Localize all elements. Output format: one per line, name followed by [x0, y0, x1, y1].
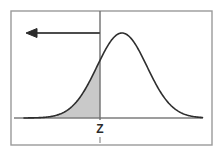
- normal-distribution-chart: Z: [0, 0, 222, 156]
- figure-root: Z: [0, 0, 222, 156]
- z-axis-label: Z: [96, 122, 103, 136]
- figure-background: [0, 0, 222, 156]
